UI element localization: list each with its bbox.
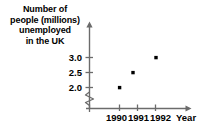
x-tick-label-1992: 1992 [150,112,171,123]
data-point-marker [118,86,121,89]
y-tick-label-3-0: 3.0 [58,52,82,63]
arrow-right-icon [186,105,192,111]
arrow-up-icon [86,22,92,28]
y-tick-label-2-0: 2.0 [58,82,82,93]
y-tick-label-2-5: 2.5 [58,67,82,78]
plot-area [0,0,206,129]
chart-screenshot: Number of people (millions) unemployed i… [0,0,206,129]
data-point-marker [154,56,157,59]
x-tick-label-1991: 1991 [128,112,149,123]
data-point-marker [131,71,134,74]
x-tick-label-1990: 1990 [106,112,127,123]
x-axis-title: Year [176,112,196,123]
